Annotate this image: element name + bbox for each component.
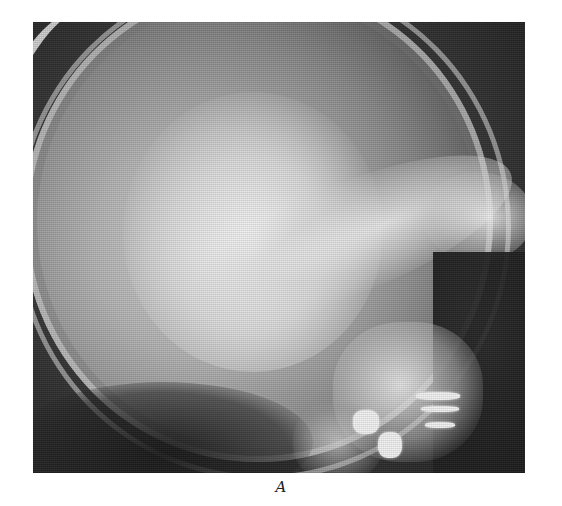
tooth bbox=[378, 432, 402, 458]
frontal-region bbox=[423, 172, 525, 262]
tooth bbox=[425, 422, 455, 428]
tooth bbox=[421, 406, 459, 412]
figure: A bbox=[0, 0, 562, 506]
maxilla-region bbox=[333, 322, 483, 462]
skull-base bbox=[175, 122, 525, 351]
central-opacity bbox=[123, 92, 383, 372]
skull-xray-image bbox=[33, 22, 525, 473]
tooth bbox=[416, 392, 460, 400]
tooth bbox=[353, 410, 379, 434]
scalp-edge bbox=[33, 22, 160, 276]
occipital-dark-area bbox=[33, 382, 313, 473]
facial-region-dark bbox=[433, 252, 525, 473]
panel-label: A bbox=[0, 478, 562, 496]
